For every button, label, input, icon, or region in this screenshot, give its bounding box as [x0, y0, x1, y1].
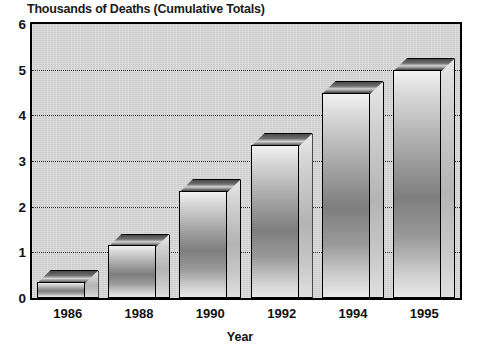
- x-tick-label: 1990: [196, 306, 225, 321]
- bar-front-face: [322, 93, 370, 299]
- bar: [108, 233, 170, 298]
- bar: [322, 81, 384, 299]
- bar-front-face: [393, 70, 441, 298]
- bar-front-face: [251, 145, 299, 298]
- y-tick-label: 6: [4, 17, 26, 32]
- y-tick-label: 2: [4, 199, 26, 214]
- y-tick-label: 0: [4, 291, 26, 306]
- y-tick-label: 5: [4, 62, 26, 77]
- x-tick-label: 1994: [339, 306, 368, 321]
- bar-front-face: [108, 245, 156, 298]
- bar-front-face: [37, 282, 85, 298]
- x-axis-title: Year: [0, 330, 480, 344]
- bar-side-face: [297, 134, 313, 298]
- chart-title: Thousands of Deaths (Cumulative Totals): [27, 2, 265, 16]
- x-tick-label: 1992: [267, 306, 296, 321]
- bar: [251, 133, 313, 298]
- y-tick-label: 4: [4, 108, 26, 123]
- bar: [37, 270, 99, 298]
- bar-side-face: [226, 180, 242, 298]
- chart-figure: Thousands of Deaths (Cumulative Totals) …: [0, 0, 480, 364]
- y-tick-label: 1: [4, 245, 26, 260]
- bar: [393, 58, 455, 298]
- bar-side-face: [440, 59, 456, 298]
- bar-front-face: [179, 191, 227, 298]
- bar-side-face: [368, 82, 384, 299]
- plot-area: [30, 22, 462, 300]
- x-tick-label: 1986: [53, 306, 82, 321]
- y-tick-label: 3: [4, 154, 26, 169]
- bar: [179, 179, 241, 298]
- x-tick-label: 1995: [410, 306, 439, 321]
- x-tick-label: 1988: [125, 306, 154, 321]
